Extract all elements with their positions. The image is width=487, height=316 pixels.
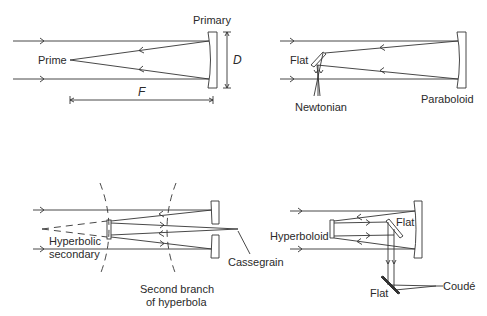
second-branch-label-line2: of hyperbola <box>146 296 207 308</box>
coude-label: Coudé <box>443 280 475 292</box>
coude-ray <box>390 285 436 286</box>
paraboloid-label: Paraboloid <box>421 93 474 105</box>
arrow-left-icon <box>159 231 164 237</box>
hyperboloid-secondary-mirror <box>330 220 334 238</box>
second-branch-label-line1: Second branch <box>140 283 214 295</box>
cassegrain-label: Cassegrain <box>228 256 284 268</box>
flat-upper-label: Flat <box>396 216 414 228</box>
primary-reflected-ray <box>334 238 415 249</box>
flat-lower-label: Flat <box>370 287 388 299</box>
coude-primary-mirror <box>414 201 422 258</box>
reflected-ray-bottom <box>317 65 458 79</box>
secondary-reflected-ray <box>111 229 238 235</box>
arrow-left-icon <box>139 66 144 72</box>
hyperboloid-label: Hyperboloid <box>270 230 329 242</box>
cassegrain-leader-line <box>238 231 250 254</box>
cassegrain-panel: Hyperbolic secondary Cassegrain Second b… <box>33 183 284 308</box>
hyperbola-branch-second <box>167 183 176 275</box>
arrow-left-icon <box>380 68 385 74</box>
diameter-label: D <box>233 53 242 67</box>
secondary-reflected-ray <box>334 222 388 223</box>
newtonian-label: Newtonian <box>295 101 347 113</box>
primary-reflected-ray <box>111 237 212 249</box>
secondary-reflected-ray <box>334 235 394 236</box>
arrow-left-icon <box>357 214 362 220</box>
cassegrain-primary-upper <box>211 201 219 224</box>
telescope-diagram: D F Primary Prime Flat Newtonian Par <box>0 0 487 316</box>
coude-ray <box>395 286 436 290</box>
prime-label: Prime <box>38 54 67 66</box>
prime-focus-panel: D F Primary Prime <box>13 14 242 104</box>
reflected-ray-top <box>325 41 458 53</box>
hyperbolic-label-line2: secondary <box>49 248 100 260</box>
newtonian-panel: Flat Newtonian Paraboloid <box>280 32 474 113</box>
arrow-down-icon <box>319 70 323 73</box>
focal-length-label: F <box>138 85 146 99</box>
primary-label: Primary <box>193 14 231 26</box>
virtual-ray <box>42 221 107 229</box>
coude-panel: Hyperboloid Flat Flat Coudé <box>270 201 475 299</box>
flat-label: Flat <box>290 54 308 66</box>
cassegrain-primary-lower <box>211 235 219 258</box>
primary-mirror <box>208 32 217 88</box>
hyperbolic-label-line1: Hyperbolic <box>49 235 101 247</box>
paraboloid-mirror <box>457 32 466 88</box>
